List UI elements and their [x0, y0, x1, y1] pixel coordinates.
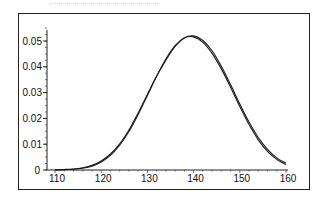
x-tick-label: 150 — [233, 173, 250, 184]
y-tick-label: 0 — [34, 165, 40, 176]
x-tick-label: 130 — [141, 173, 158, 184]
axes — [47, 30, 288, 170]
y-tick-label: 0.05 — [23, 36, 43, 47]
x-tick-label: 110 — [49, 173, 65, 184]
y-tick-label: 0.04 — [23, 61, 43, 72]
x-tick-label: 120 — [95, 173, 112, 184]
x-tick-label: 160 — [280, 173, 297, 184]
line-chart: 00.010.020.030.040.05 110120130140150160 — [0, 0, 326, 201]
x-tick-label: 140 — [187, 173, 204, 184]
y-axis-ticks: 00.010.020.030.040.05 — [23, 28, 47, 175]
y-tick-label: 0.01 — [23, 139, 43, 150]
data-lines — [55, 36, 286, 170]
series-line-2 — [55, 36, 286, 170]
series-line-1 — [55, 36, 286, 169]
x-axis-ticks: 110120130140150160 — [49, 170, 297, 184]
y-tick-label: 0.03 — [23, 87, 43, 98]
y-tick-label: 0.02 — [23, 113, 43, 124]
